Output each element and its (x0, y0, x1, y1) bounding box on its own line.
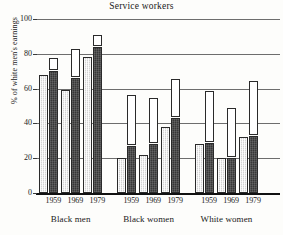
y-tick-label-0: 0 (6, 188, 32, 197)
x-axis-line (36, 193, 280, 195)
y-tick-mark-0 (33, 193, 37, 194)
bar-black-men-1959-dark (49, 71, 58, 193)
bar-cap-open-segment (171, 79, 180, 117)
bar-cap-open-segment (127, 95, 136, 145)
bar-cap-open-segment (71, 49, 80, 77)
bar-black-men-1959-light (39, 75, 48, 193)
x-tick-label-black-women-1959: 1959 (119, 196, 143, 205)
bar-white-women-1969-dark (227, 158, 236, 193)
bar-black-women-1959-light (117, 158, 126, 193)
x-tick-label-white-women-1969: 1969 (219, 196, 243, 205)
y-tick-mark-60 (33, 89, 37, 90)
y-tick-label-40: 40 (6, 118, 32, 127)
plot-area: 020406080100 (36, 19, 280, 193)
bar-cap-open-segment (149, 98, 158, 143)
group-label-black-women: Black women (109, 214, 189, 224)
x-tick-label-black-men-1969: 1969 (63, 196, 87, 205)
x-tick-label-white-women-1979: 1979 (241, 196, 265, 205)
bar-white-women-1969-light (217, 158, 226, 193)
bar-black-men-1969-light (61, 90, 70, 193)
gridline-100 (36, 19, 280, 20)
group-label-white-women: White women (187, 214, 267, 224)
x-tick-label-black-women-1979: 1979 (163, 196, 187, 205)
y-tick-label-20: 20 (6, 153, 32, 162)
y-tick-label-60: 60 (6, 83, 32, 92)
bar-cap-open-segment (227, 108, 236, 157)
y-tick-label-80: 80 (6, 48, 32, 57)
y-tick-mark-80 (33, 54, 37, 55)
bar-black-men-1969-dark (71, 78, 80, 193)
bar-white-women-1959-dark (205, 143, 214, 193)
bar-black-men-1979-dark (93, 47, 102, 193)
x-tick-label-black-men-1959: 1959 (41, 196, 65, 205)
y-tick-mark-100 (33, 19, 37, 20)
bar-white-women-1979-dark (249, 136, 258, 193)
x-tick-label-white-women-1959: 1959 (197, 196, 221, 205)
bar-cap-open-segment (249, 81, 258, 135)
chart-title: Service workers (0, 1, 283, 11)
y-tick-label-100: 100 (6, 14, 32, 23)
chart-container: Service workers % of white men's earning… (0, 0, 283, 235)
bar-black-men-1979-light (83, 57, 92, 193)
x-tick-label-black-men-1979: 1979 (85, 196, 109, 205)
x-tick-label-black-women-1969: 1969 (141, 196, 165, 205)
bar-black-women-1969-dark (149, 144, 158, 193)
y-tick-mark-40 (33, 123, 37, 124)
bar-black-women-1969-light (139, 155, 148, 193)
group-label-black-men: Black men (31, 214, 111, 224)
bar-white-women-1979-light (239, 137, 248, 193)
bar-black-women-1979-light (161, 127, 170, 193)
bar-cap-open-segment (93, 35, 102, 45)
y-tick-mark-20 (33, 158, 37, 159)
bar-black-women-1979-dark (171, 118, 180, 193)
bar-cap-open-segment (49, 58, 58, 70)
bar-black-women-1959-dark (127, 146, 136, 193)
bar-cap-open-segment (205, 91, 214, 141)
bar-white-women-1959-light (195, 144, 204, 193)
